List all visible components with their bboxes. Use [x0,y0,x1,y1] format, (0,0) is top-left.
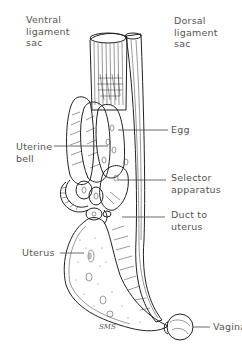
label-line: ligament [174,27,218,39]
label-selector-apparatus: Selector apparatus [171,172,221,195]
label-line: Uterine [16,141,52,153]
segmented-duct-shape [60,180,111,224]
label-line: ligament [26,26,70,38]
label-line: Dorsal [174,15,218,27]
label-egg: Egg [171,124,190,136]
label-line: Vagina [213,321,242,333]
label-dorsal-ligament-sac: Dorsal ligament sac [174,15,218,50]
label-duct-to-uterus: Duct to uterus [171,209,207,232]
label-line: Selector [171,172,221,184]
label-line: sac [174,38,218,50]
label-line: Duct to [171,209,207,221]
selector-apparatus-shape [100,166,129,211]
label-uterus: Uterus [22,247,55,259]
label-line: sac [26,37,70,49]
label-uterine-bell: Uterine bell [16,141,52,164]
label-line: bell [16,153,52,165]
label-line: uterus [171,221,207,233]
vagina-shape [164,314,193,340]
label-line: Ventral [26,14,70,26]
label-line: Uterus [22,247,55,259]
label-ventral-ligament-sac: Ventral ligament sac [26,14,70,49]
label-line: Egg [171,124,190,136]
artist-signature: SMS [99,323,116,331]
label-line: apparatus [171,184,221,196]
uterus-shape [64,218,168,331]
label-vagina: Vagina [213,321,242,333]
dorsal-ligament-sac-shape [125,33,162,322]
ventral-ligament-sac-shape [90,33,127,110]
